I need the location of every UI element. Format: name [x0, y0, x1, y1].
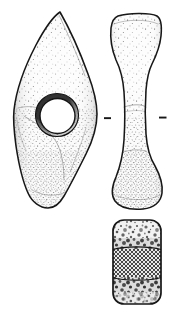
illustration-plate: Shaft-hole battle-axe Plan view Lozenge-… — [0, 0, 175, 317]
section-tick-left-icon — [104, 117, 111, 119]
cross-section-fill — [110, 216, 164, 308]
section-band-middle — [110, 249, 164, 278]
section-tick-right-icon — [159, 117, 167, 119]
cross-section-view — [110, 216, 164, 308]
shaft-hole-bore — [40, 99, 75, 134]
archaeological-figure — [0, 0, 175, 317]
shaft-hole — [36, 94, 79, 137]
